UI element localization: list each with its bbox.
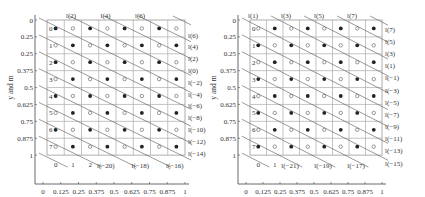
y-axis-title: y and m: [6, 75, 15, 99]
y-tick-label: 0.375: [17, 67, 33, 75]
row-label: 1: [49, 42, 53, 50]
filled-dot: [71, 145, 75, 149]
label-line: [242, 18, 388, 93]
right-line-label: l(2): [188, 55, 199, 63]
filled-dot: [105, 77, 109, 81]
open-dot: [88, 44, 91, 47]
open-dot: [339, 44, 342, 47]
label-line: [39, 69, 191, 143]
y-tick-label: 0.25: [224, 33, 237, 41]
open-dot: [71, 27, 74, 30]
filled-dot: [273, 27, 277, 31]
filled-dot: [140, 111, 144, 115]
filled-dot: [372, 27, 376, 31]
x-tick-label: 0.625: [124, 188, 140, 196]
open-dot: [273, 44, 276, 47]
open-dot: [106, 27, 109, 30]
bottom-line-label: l(−20): [97, 162, 115, 170]
filled-dot: [71, 77, 75, 81]
col-label: 0: [54, 161, 58, 169]
row-label: 4: [49, 93, 53, 101]
top-line-label: l(4): [100, 12, 111, 20]
y-tick-label: 0.75: [224, 118, 237, 126]
open-dot: [157, 145, 160, 148]
open-dot: [88, 77, 91, 80]
row-label: 5: [49, 109, 53, 117]
y-tick-label: 0.875: [220, 135, 236, 143]
y-tick-label: 0.25: [21, 33, 34, 41]
open-dot: [372, 111, 375, 114]
open-dot: [123, 44, 126, 47]
row-label: 7: [49, 143, 53, 151]
label-line: [271, 16, 388, 76]
filled-dot: [306, 128, 310, 132]
filled-dot: [105, 43, 109, 47]
row-label: 0: [252, 25, 256, 33]
right-line-label: l(1): [385, 62, 396, 70]
filled-dot: [306, 60, 310, 64]
y-tick-label: 0: [30, 17, 34, 25]
y-tick-label: 0.375: [220, 67, 236, 75]
open-dot: [372, 77, 375, 80]
y-tick-label: 0.25: [21, 50, 34, 58]
y-axis-title: y and m: [209, 75, 218, 99]
open-dot: [372, 44, 375, 47]
open-dot: [71, 61, 74, 64]
label-line: [39, 52, 191, 126]
open-dot: [88, 111, 91, 114]
top-line-label: l(5): [314, 12, 325, 20]
y-tick-label: 0.25: [224, 50, 237, 58]
col-label: 1: [71, 161, 75, 169]
row-label: 6: [49, 126, 53, 134]
open-dot: [106, 61, 109, 64]
filled-dot: [339, 60, 343, 64]
right-line-label: l(3): [385, 50, 396, 58]
filled-dot: [372, 60, 376, 64]
y-tick-label: 1: [30, 152, 34, 160]
y-tick-label: 0: [233, 17, 237, 25]
filled-dot: [105, 111, 109, 115]
open-dot: [273, 111, 276, 114]
open-dot: [175, 61, 178, 64]
open-dot: [339, 111, 342, 114]
top-line-label: l(6): [135, 12, 146, 20]
left-panel: 0123456701200.250.250.3750.50.6250.750.8…: [6, 12, 206, 197]
right-line-label: l(−7): [385, 111, 400, 119]
y-tick-label: 1: [233, 152, 237, 160]
open-dot: [54, 77, 57, 80]
right-line-label: l(4): [188, 43, 199, 51]
x-tick-label: 0: [41, 188, 45, 196]
filled-dot: [174, 77, 178, 81]
right-line-label: l(−10): [188, 126, 206, 134]
bottom-line-label: l(−21): [281, 162, 299, 170]
x-tick-label: 0.25: [72, 188, 85, 196]
label-line: [242, 69, 388, 144]
label-line: [39, 102, 171, 167]
open-dot: [54, 111, 57, 114]
right-line-label: l(−9): [385, 123, 400, 131]
right-line-label: l(7): [385, 26, 396, 34]
filled-dot: [71, 111, 75, 115]
label-line: [173, 16, 191, 25]
filled-dot: [105, 145, 109, 149]
open-dot: [88, 145, 91, 148]
filled-dot: [273, 128, 277, 132]
x-tick-label: 0.5: [110, 188, 119, 196]
top-line-label: l(2): [66, 12, 77, 20]
row-label: 3: [49, 76, 53, 84]
right-line-label: l(−3): [385, 87, 400, 95]
row-label: 5: [252, 109, 256, 117]
top-line-label: l(7): [347, 12, 358, 20]
x-tick-label: 0.5: [310, 188, 319, 196]
open-dot: [175, 94, 178, 97]
open-dot: [106, 94, 109, 97]
open-dot: [54, 44, 57, 47]
x-tick-label: 0.75: [143, 188, 156, 196]
x-tick-label: 0: [244, 188, 248, 196]
right-line-label: l(−4): [188, 91, 203, 99]
open-dot: [140, 61, 143, 64]
y-tick-label: 0.5: [227, 84, 236, 92]
filled-dot: [174, 111, 178, 115]
filled-dot: [140, 145, 144, 149]
right-line-label: l(−14): [188, 150, 206, 158]
